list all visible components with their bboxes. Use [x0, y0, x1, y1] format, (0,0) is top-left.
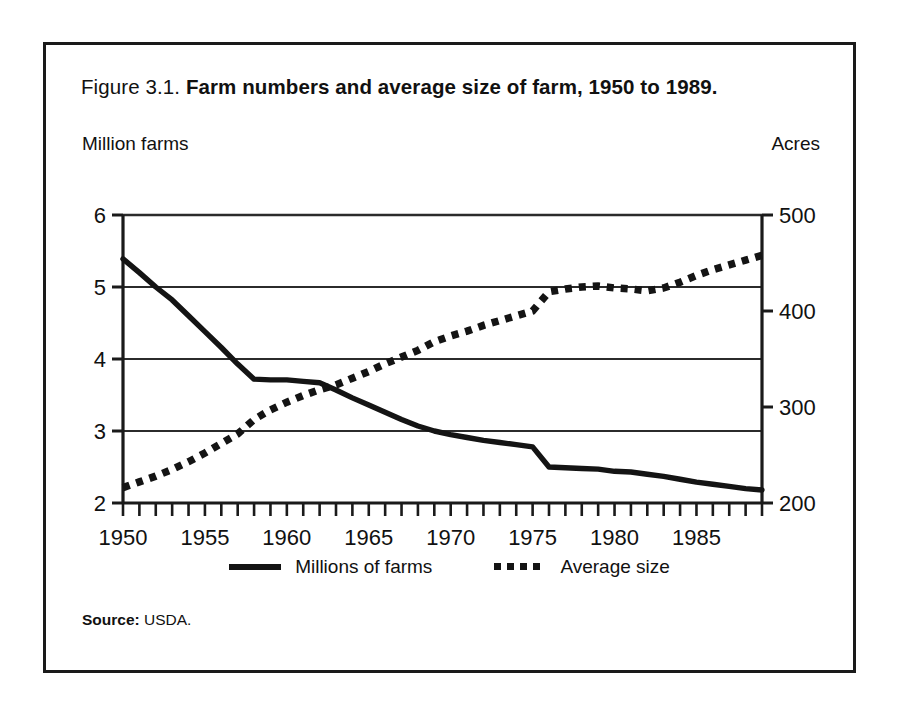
- chart-svg: 2345620030040050019501955196019651970197…: [46, 45, 853, 670]
- source-label: Source:: [82, 611, 140, 628]
- x-axis-tick-label: 1950: [99, 525, 148, 550]
- x-axis-tick-label: 1960: [262, 525, 311, 550]
- y-axis-right-tick-label: 400: [779, 299, 816, 324]
- y-axis-right-tick-label: 300: [779, 395, 816, 420]
- y-axis-right-tick-label: 200: [779, 491, 816, 516]
- y-axis-left-tick-label: 5: [94, 275, 106, 300]
- dotted-line-swatch-icon: [494, 563, 546, 570]
- y-axis-left-tick-label: 3: [94, 419, 106, 444]
- y-axis-left-tick-label: 6: [94, 203, 106, 228]
- series-line-2: [123, 255, 762, 487]
- x-axis-tick-label: 1965: [344, 525, 393, 550]
- x-axis-tick-label: 1955: [180, 525, 229, 550]
- y-axis-left-tick-label: 2: [94, 491, 106, 516]
- figure-frame: Figure 3.1. Farm numbers and average siz…: [43, 42, 856, 673]
- x-axis-tick-label: 1975: [508, 525, 557, 550]
- x-axis-tick-label: 1980: [590, 525, 639, 550]
- series-line-1: [123, 259, 762, 490]
- legend-item-average-size: Average size: [494, 557, 670, 576]
- legend-item-millions-of-farms: Millions of farms: [229, 557, 432, 576]
- y-axis-left-tick-label: 4: [94, 347, 106, 372]
- x-axis-tick-label: 1970: [426, 525, 475, 550]
- legend-label-average-size: Average size: [560, 557, 670, 576]
- y-axis-right-tick-label: 500: [779, 203, 816, 228]
- plot-area: 2345620030040050019501955196019651970197…: [46, 45, 853, 670]
- source-value: USDA.: [144, 611, 191, 628]
- x-axis-tick-label: 1985: [672, 525, 721, 550]
- chart-legend: Millions of farms Average size: [46, 557, 853, 576]
- solid-line-swatch-icon: [229, 564, 281, 570]
- source-note: Source: USDA.: [82, 611, 191, 629]
- legend-label-millions-of-farms: Millions of farms: [295, 557, 432, 576]
